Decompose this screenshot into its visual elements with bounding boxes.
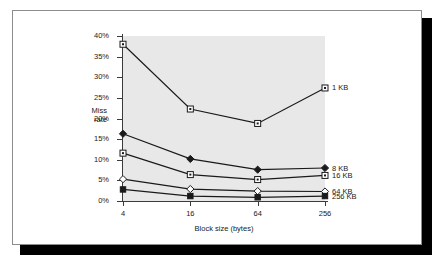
chart-area: 0%5%10%15%20%25%30%35%40% 41664256 Miss … xyxy=(13,11,423,246)
series-line xyxy=(123,134,325,170)
legend-label-16-kb: 16 KB xyxy=(332,171,352,180)
series-line xyxy=(123,44,325,123)
series-line xyxy=(123,179,325,191)
series-16-kb xyxy=(120,150,328,182)
figure-frame: 0%5%10%15%20%25%30%35%40% 41664256 Miss … xyxy=(12,10,422,245)
legend-label-1-kb: 1 KB xyxy=(332,83,348,92)
legend-label-256-kb: 256 KB xyxy=(332,192,357,201)
series-layer xyxy=(13,11,423,246)
series-line xyxy=(123,153,325,179)
series-8-kb xyxy=(119,130,328,173)
figure-root: 0%5%10%15%20%25%30%35%40% 41664256 Miss … xyxy=(0,0,445,263)
series-256-kb xyxy=(120,187,327,200)
series-1-kb xyxy=(120,41,328,126)
